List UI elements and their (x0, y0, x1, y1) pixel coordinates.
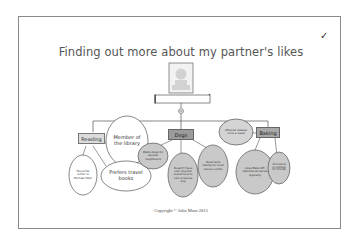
copyright-notice: Copyright © Julia Moor 2013 (0, 208, 362, 213)
person-silhouette-icon (169, 63, 193, 93)
note-rescue-dog: Doesn't have own dog but would love to o… (171, 160, 195, 190)
mind-map-connectors (0, 0, 362, 240)
add-circle-icon (179, 109, 184, 114)
note-favourite-writer: Favourite writer is Michael Palin (72, 160, 94, 190)
note-attends-classes: Attends classes once a week (223, 124, 249, 140)
category-baking[interactable]: Baking (256, 127, 280, 138)
note-bake-off: Likes Bake Off, watches all series regul… (241, 160, 269, 184)
category-reading[interactable]: Reading (78, 133, 105, 144)
note-prefers-travel-books: Prefers travel books (106, 166, 146, 186)
note-fund-raising: Does fund raising for local rescue centr… (202, 151, 224, 181)
note-cooking-friends: Interested in cooking for friends (271, 156, 287, 180)
note-walks-dogs: Walks dogs for several neighbours (141, 147, 165, 165)
category-dogs[interactable]: Dogs (168, 129, 194, 140)
note-member-of-library: Member of the library (111, 124, 143, 158)
name-box (155, 95, 210, 103)
